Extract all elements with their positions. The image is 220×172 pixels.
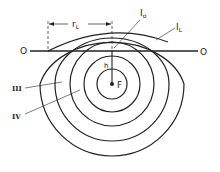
zone4-leader bbox=[25, 90, 80, 114]
IL-label: IL bbox=[176, 22, 183, 33]
zone4-label: IV bbox=[12, 112, 21, 121]
I0-label: Io bbox=[140, 8, 147, 19]
F-label: F bbox=[117, 80, 122, 90]
focus-point bbox=[110, 82, 114, 86]
O-right-label: O bbox=[200, 47, 207, 57]
rL-label: rL bbox=[72, 19, 80, 30]
zone3-leader bbox=[25, 82, 62, 88]
arrowhead-right bbox=[106, 22, 111, 26]
arrowhead-left bbox=[49, 22, 54, 26]
h-label: h bbox=[104, 62, 108, 70]
IL-leader bbox=[156, 28, 175, 40]
concentric-zone-diagram: O O F h rL Io IL III IV bbox=[0, 0, 220, 172]
zone3-label: III bbox=[12, 84, 22, 93]
O-left-label: O bbox=[20, 46, 27, 56]
